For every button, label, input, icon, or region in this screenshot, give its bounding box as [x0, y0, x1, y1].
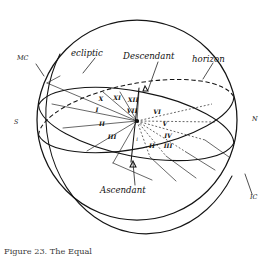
ecliptic-label: ecliptic: [71, 48, 103, 58]
sphere-center-point: [135, 119, 139, 123]
horizon-label: horizon: [192, 54, 225, 64]
house-frame-line: [47, 76, 60, 83]
house-cusp-line: [52, 104, 137, 121]
figure-root: ecliptic horizon Descendant Ascendant MC…: [0, 0, 275, 256]
house-cusp-line-hidden: [137, 121, 150, 157]
mc-leader-line: [36, 64, 44, 76]
house-numeral: XII: [127, 96, 140, 103]
house-frame-line: [113, 163, 152, 180]
mc-label: MC: [16, 54, 29, 62]
ic-label: IC: [249, 193, 258, 201]
house-numeral: II: [148, 142, 156, 149]
ascendant-leader-line: [133, 163, 135, 185]
descendant-label: Descendant: [122, 51, 175, 61]
house-numeral: XI: [112, 94, 122, 101]
house-frame-line: [186, 152, 215, 170]
north-label: N: [251, 115, 258, 123]
house-numeral: III: [107, 133, 118, 140]
horizon-leader-line: [203, 63, 213, 79]
south-label: S: [14, 118, 19, 126]
house-cusp-line-hidden: [137, 121, 216, 122]
house-numeral: VI: [153, 108, 162, 115]
house-frame-line: [205, 140, 229, 157]
ic-leader-line: [245, 174, 252, 194]
celestial-sphere-diagram: ecliptic horizon Descendant Ascendant MC…: [0, 0, 275, 256]
house-frame-line: [166, 156, 196, 178]
meridian-secondary-arc: [46, 54, 232, 234]
house-numeral: VII: [127, 107, 139, 114]
house-cusp-lines-rear: [137, 104, 216, 157]
ecliptic-leader-line: [83, 58, 95, 73]
ascendant-label: Ascendant: [99, 185, 146, 195]
house-numeral: III: [163, 142, 174, 149]
figure-caption: Figure 23. The Equal: [4, 247, 272, 256]
house-numeral: IV: [163, 132, 173, 139]
descendant-leader-line: [148, 62, 158, 90]
house-numeral: i: [136, 136, 138, 142]
house-numeral: X: [98, 95, 104, 102]
figure-caption-text: Figure 23. The Equal: [4, 247, 272, 256]
horizon-back-arc: [39, 73, 241, 143]
house-numeral: I: [95, 106, 100, 113]
house-numeral: II: [98, 120, 106, 127]
house-cusp-line-hidden: [137, 104, 212, 121]
horizon-plane: [32, 73, 240, 175]
descendant-arrowhead: [143, 86, 148, 91]
